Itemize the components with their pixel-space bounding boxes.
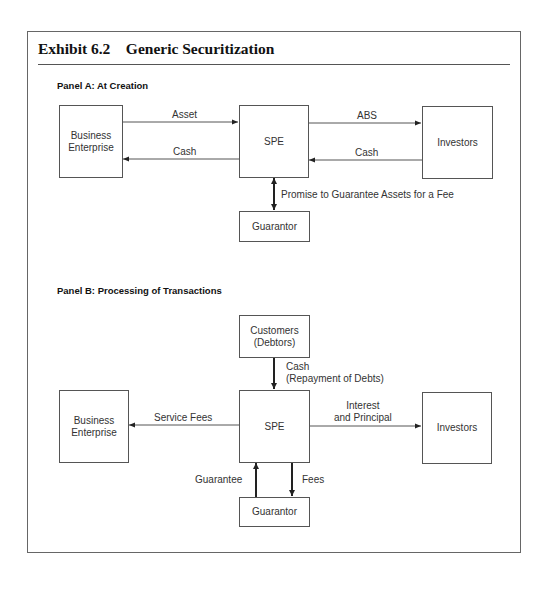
node-label: Investors [437,137,478,149]
panel-b-guarantor: Guarantor [239,497,310,527]
panel-b-label: Panel B: Processing of Transactions [57,285,222,296]
node-label: Guarantor [252,221,297,233]
node-label: SPE [264,421,284,433]
edge-label-cash-from-investors: Cash [355,147,378,159]
panel-a-investors: Investors [422,106,493,179]
node-label: Investors [437,422,478,434]
panel-a-spe: SPE [239,105,309,178]
edge-label-asset: Asset [172,109,197,121]
edge-label-abs: ABS [357,110,377,122]
edge-label-fees: Fees [302,474,324,486]
edge-label-cash-to-business: Cash [173,146,196,158]
edge-label-interest-principal: Interest and Principal [334,400,392,424]
panel-a-guarantor: Guarantor [239,211,310,242]
node-label: Business Enterprise [71,415,117,439]
panel-b-business-enterprise: Business Enterprise [59,390,129,463]
panel-a-label: Panel A: At Creation [57,80,148,91]
panel-a-business-enterprise: Business Enterprise [59,105,123,178]
edge-label-guarantee-promise: Promise to Guarantee Assets for a Fee [281,189,454,201]
node-label: SPE [264,136,284,148]
node-label: Business Enterprise [68,130,114,154]
edge-label-guarantee: Guarantee [195,474,242,486]
edge-label-service-fees: Service Fees [154,412,212,424]
edge-label-cash-repayment: Cash (Repayment of Debts) [286,361,384,385]
panel-b-investors: Investors [422,392,492,464]
node-label: Guarantor [252,506,297,518]
node-label: Customers (Debtors) [250,325,298,349]
panel-b-customers: Customers (Debtors) [239,315,310,358]
panel-b-spe: SPE [239,390,310,463]
